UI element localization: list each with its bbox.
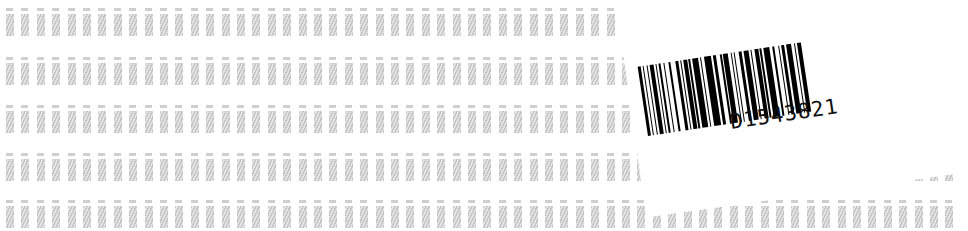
tile xyxy=(838,206,846,228)
tile-cap xyxy=(21,200,28,203)
tile xyxy=(237,159,245,181)
tile-cap xyxy=(422,105,429,108)
tile-cap xyxy=(191,57,198,60)
tile-cap xyxy=(83,57,90,60)
tile xyxy=(468,159,476,181)
tile xyxy=(329,206,337,228)
tile-cap xyxy=(37,153,44,156)
tile-cap xyxy=(329,57,336,60)
tile-cap xyxy=(129,8,136,11)
tile xyxy=(422,206,430,228)
tile xyxy=(437,111,445,133)
tile xyxy=(853,206,861,228)
tile xyxy=(453,63,461,85)
tile-cap xyxy=(483,57,490,60)
tile-cap xyxy=(299,57,306,60)
tile-cap xyxy=(560,200,567,203)
tile-cap xyxy=(268,200,275,203)
tile xyxy=(591,206,599,228)
tile xyxy=(37,63,45,85)
tile-cap xyxy=(114,105,121,108)
tile-cap xyxy=(899,200,906,203)
tile-cap xyxy=(345,8,352,11)
tile-cap xyxy=(360,8,367,11)
tile-cap xyxy=(545,8,552,11)
tile xyxy=(114,14,122,36)
tile-cap xyxy=(391,57,398,60)
tile-cap xyxy=(453,105,460,108)
tile xyxy=(68,63,76,85)
tile xyxy=(514,159,522,181)
tile xyxy=(545,14,553,36)
tile-cap xyxy=(160,200,167,203)
tile xyxy=(83,206,91,228)
tile-cap xyxy=(21,105,28,108)
tile xyxy=(222,159,230,181)
tile-cap xyxy=(206,200,213,203)
tile xyxy=(607,63,615,85)
tile-cap xyxy=(283,200,290,203)
tile-cap xyxy=(345,105,352,108)
tile-cap xyxy=(314,8,321,11)
tile xyxy=(545,206,553,228)
tile-cap xyxy=(822,200,829,203)
tile xyxy=(175,63,183,85)
tile-cap xyxy=(437,8,444,11)
tile-cap xyxy=(98,105,105,108)
tile-cap xyxy=(6,8,13,11)
tile-cap xyxy=(52,153,59,156)
tile xyxy=(391,159,399,181)
tile xyxy=(145,111,153,133)
tile xyxy=(222,14,230,36)
tile xyxy=(376,63,384,85)
tile xyxy=(175,14,183,36)
tile-cap xyxy=(345,200,352,203)
tile-cap xyxy=(622,200,629,203)
tile xyxy=(314,159,322,181)
tile-cap xyxy=(945,200,952,203)
tile-cap xyxy=(37,57,44,60)
tile-cap xyxy=(376,8,383,11)
tile-cap xyxy=(483,200,490,203)
tile xyxy=(129,63,137,85)
tile-cap xyxy=(299,200,306,203)
tile xyxy=(37,111,45,133)
tile-cap xyxy=(83,8,90,11)
tile-cap xyxy=(406,105,413,108)
tile-cap xyxy=(468,8,475,11)
tile xyxy=(560,159,568,181)
tile-cap xyxy=(68,200,75,203)
tile xyxy=(607,111,615,133)
tile xyxy=(468,206,476,228)
tile-cap xyxy=(422,8,429,11)
tile-cap xyxy=(160,8,167,11)
tile xyxy=(560,63,568,85)
tile xyxy=(499,63,507,85)
tile-cap xyxy=(129,57,136,60)
tile-cap xyxy=(98,153,105,156)
tile xyxy=(514,14,522,36)
tile-cap xyxy=(560,8,567,11)
tile-cap xyxy=(607,153,614,156)
tile xyxy=(98,159,106,181)
tile-cap xyxy=(437,57,444,60)
tile xyxy=(237,206,245,228)
tile-cap xyxy=(530,57,537,60)
tile xyxy=(114,63,122,85)
tile xyxy=(560,206,568,228)
tile-cap xyxy=(391,8,398,11)
tile xyxy=(52,111,60,133)
tile-cap xyxy=(175,105,182,108)
tile-cap xyxy=(191,8,198,11)
tile-cap xyxy=(252,153,259,156)
tile xyxy=(360,14,368,36)
tile-cap xyxy=(314,57,321,60)
tile xyxy=(68,206,76,228)
tile xyxy=(391,14,399,36)
tile xyxy=(376,206,384,228)
tile-cap xyxy=(299,105,306,108)
tile-cap xyxy=(6,200,13,203)
tile xyxy=(868,206,876,228)
tile xyxy=(915,206,923,228)
tile xyxy=(222,63,230,85)
